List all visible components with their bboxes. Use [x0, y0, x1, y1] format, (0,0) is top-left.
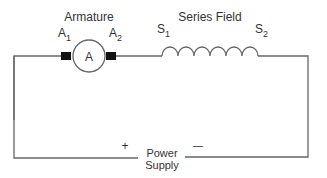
series-field-coil	[162, 47, 258, 56]
wire-bottom-left	[14, 56, 138, 158]
power-supply-minus: —	[193, 140, 203, 151]
armature-terminal-right	[106, 52, 116, 60]
power-supply-label-line2: Supply	[145, 159, 179, 171]
wire-right	[185, 56, 308, 157]
wire-left	[14, 56, 61, 120]
armature-title: Armature	[64, 10, 114, 24]
armature-symbol: A	[85, 50, 93, 64]
terminal-s1: S1	[157, 22, 170, 39]
terminal-a2: A2	[109, 26, 122, 43]
series-field-title: Series Field	[178, 10, 241, 24]
power-supply-label-line1: Power	[146, 147, 178, 159]
terminal-a1: A1	[58, 26, 71, 43]
armature-terminal-left	[61, 52, 71, 60]
terminal-s2: S2	[255, 22, 268, 39]
armature: A	[61, 40, 116, 72]
power-supply-plus: +	[121, 139, 128, 153]
circuit-diagram: A Armature A1 A2 Series Field S1 S2 + — …	[0, 0, 327, 178]
